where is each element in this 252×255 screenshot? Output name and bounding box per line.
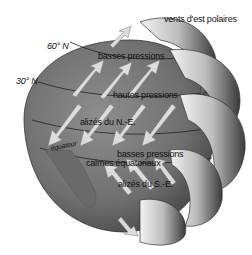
label-se-trades: alizés du S.-E. bbox=[118, 180, 173, 189]
globe-illustration bbox=[0, 0, 252, 255]
label-latitude-60: 60° N bbox=[47, 42, 69, 51]
label-high-pressure: hautes pressions bbox=[113, 91, 178, 100]
atmospheric-circulation-diagram: vents d'est polaires 60° N 30° N basses … bbox=[0, 0, 252, 255]
label-low-pressure-north: basses pressions bbox=[98, 52, 164, 61]
label-doldrums: calmes équatoriaux bbox=[86, 159, 160, 168]
label-latitude-30: 30° N bbox=[16, 77, 38, 86]
label-polar-easterlies: vents d'est polaires bbox=[164, 15, 237, 24]
label-ne-trades: alizés du N.-E. bbox=[80, 118, 136, 127]
